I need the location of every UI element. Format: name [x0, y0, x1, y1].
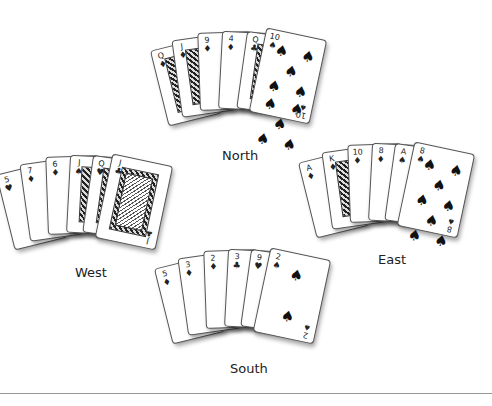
seat-label-west: West	[75, 265, 107, 280]
spade-icon: ♠	[302, 322, 312, 332]
club-icon: ♣	[144, 228, 154, 238]
heart-icon: ♥	[4, 183, 15, 193]
diamond-icon: ♦	[203, 44, 212, 52]
spade-icon: ♠	[397, 156, 407, 165]
diamond-icon: ♦	[376, 155, 385, 163]
spade-icon: ♠	[298, 102, 308, 112]
jack-of-clubs-art	[109, 167, 159, 238]
spade-pips: ♠ ♠	[268, 261, 317, 331]
spade-pips: ♠♠ ♠ ♠♠ ♠♠ ♠ ♠♠	[264, 41, 313, 111]
seat-label-east: East	[378, 252, 406, 267]
club-icon: ♣	[232, 261, 241, 269]
diamond-icon: ♦	[26, 174, 36, 183]
diamond-icon: ♦	[162, 277, 173, 287]
spade-icon: ♠	[446, 216, 456, 226]
diamond-icon: ♦	[306, 171, 317, 181]
bottom-divider	[0, 393, 492, 394]
diamond-icon: ♦	[184, 268, 194, 277]
diamond-icon: ♦	[226, 43, 235, 51]
diamond-icon: ♦	[209, 262, 218, 270]
heart-icon: ♥	[253, 262, 263, 271]
spade-pips: ♠♠ ♠ ♠♠ ♠ ♠♠	[412, 155, 461, 225]
seat-label-south: South	[230, 361, 268, 376]
seat-label-north: North	[222, 148, 258, 163]
diamond-icon: ♦	[51, 168, 60, 176]
diamond-icon: ♦	[353, 156, 362, 164]
